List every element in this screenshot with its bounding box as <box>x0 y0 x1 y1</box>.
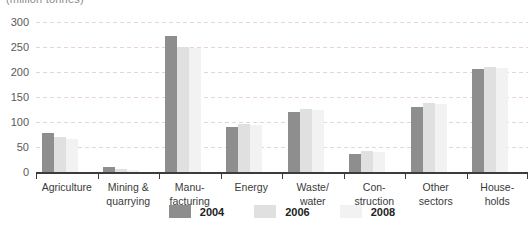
bar-2004 <box>42 133 54 172</box>
bar-2004 <box>349 154 361 172</box>
x-tick <box>98 174 99 179</box>
bar-group <box>159 22 221 172</box>
y-tick-label: 150 <box>0 91 29 103</box>
bar-group <box>467 22 529 172</box>
x-tick <box>527 174 528 179</box>
bar-group <box>36 22 98 172</box>
bar-group <box>405 22 467 172</box>
y-tick-label: 250 <box>0 41 29 53</box>
y-tick-label: 0 <box>0 166 29 178</box>
bar-2004 <box>411 107 423 172</box>
x-tick <box>36 174 37 179</box>
bar-2006 <box>423 103 435 173</box>
bar-2004 <box>165 36 177 173</box>
bar-2006 <box>54 137 66 173</box>
bar-group <box>98 22 160 172</box>
y-axis: 050100150200250300 <box>0 22 29 172</box>
bar-2006 <box>300 109 312 172</box>
bar-groups <box>36 22 528 172</box>
bar-2006 <box>115 169 127 172</box>
x-tick <box>405 174 406 179</box>
x-tick <box>282 174 283 179</box>
axis-title: (million tonnes) <box>6 0 84 5</box>
bar-2004 <box>226 127 238 172</box>
legend-label-2008: 2008 <box>371 206 395 218</box>
bar-2004 <box>103 167 115 172</box>
x-tick <box>344 174 345 179</box>
y-tick-label: 300 <box>0 16 29 28</box>
legend-item-2008: 2008 <box>340 205 395 218</box>
x-tick <box>467 174 468 179</box>
bar-2006 <box>484 67 496 173</box>
bar-2006 <box>238 124 250 173</box>
bar-2008 <box>496 68 508 172</box>
legend-swatch-2008 <box>340 205 362 218</box>
legend-swatch-2006 <box>254 205 276 218</box>
bar-2004 <box>288 112 300 173</box>
bar-group <box>221 22 283 172</box>
y-tick-label: 200 <box>0 66 29 78</box>
bar-2008 <box>127 170 139 172</box>
bar-2008 <box>189 48 201 172</box>
legend-item-2004: 2004 <box>169 205 224 218</box>
legend-swatch-2004 <box>169 205 191 218</box>
bar-2008 <box>373 152 385 173</box>
bar-2008 <box>66 139 78 172</box>
bar-2004 <box>472 69 484 172</box>
bar-2008 <box>312 110 324 172</box>
bar-group <box>344 22 406 172</box>
bar-chart-figure: (million tonnes) 050100150200250300 Agri… <box>0 0 532 233</box>
bar-2006 <box>177 47 189 173</box>
plot-area <box>36 22 528 174</box>
x-tick <box>221 174 222 179</box>
y-tick-label: 100 <box>0 116 29 128</box>
legend-label-2004: 2004 <box>200 206 224 218</box>
legend-item-2006: 2006 <box>254 205 309 218</box>
x-tick <box>159 174 160 179</box>
bar-2006 <box>361 151 373 173</box>
bar-2008 <box>250 125 262 173</box>
bar-2008 <box>435 104 447 173</box>
bar-group <box>282 22 344 172</box>
y-tick-label: 50 <box>0 141 29 153</box>
legend-label-2006: 2006 <box>285 206 309 218</box>
legend: 200420062008 <box>36 205 528 218</box>
